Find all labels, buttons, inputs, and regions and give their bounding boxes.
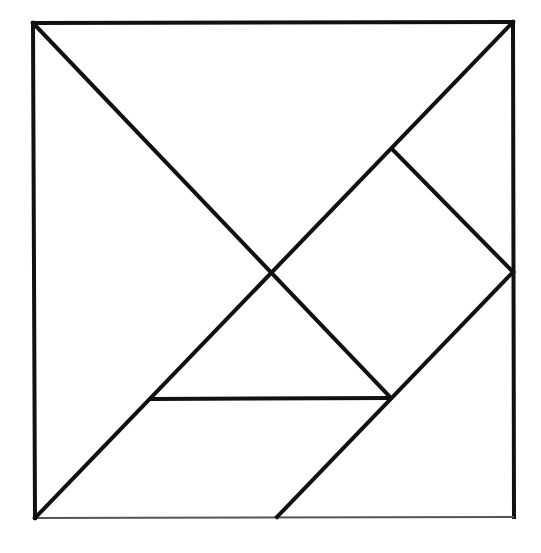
diagonal-tr-to-bl	[35, 22, 513, 518]
horizontal-p-to-j	[151, 398, 390, 399]
line-r-to-bottom	[277, 272, 513, 517]
tangram-diagram	[0, 0, 541, 553]
diagonal-tl-to-junction	[33, 23, 390, 397]
left-edge	[33, 23, 35, 518]
square-edge-top-right	[392, 149, 513, 272]
tangram-svg	[0, 0, 541, 553]
top-edge	[33, 22, 513, 23]
